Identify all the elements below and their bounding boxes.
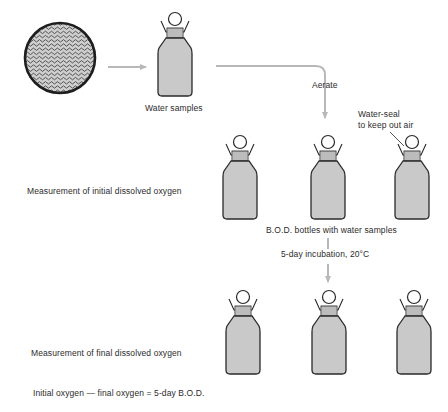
incubation-label: 5-day incubation, 20°C (281, 249, 369, 259)
water-seal-label: Water-seal to keep out air (358, 109, 413, 131)
water-samples-label: Water samples (145, 103, 203, 113)
bod-bottle-final-1 (226, 291, 260, 375)
water-seal-pointer (390, 132, 404, 146)
bod-bottle-initial-3 (395, 136, 429, 220)
bod-formula: Initial oxygen — final oxygen = 5-day B.… (33, 388, 204, 398)
aerate-label: Aerate (312, 80, 338, 90)
initial-measurement-label: Measurement of initial dissolved oxygen (27, 186, 182, 196)
sample-bottle (158, 13, 192, 97)
bod-bottle-initial-1 (223, 136, 257, 220)
bod-bottles-label: B.O.D. bottles with water samples (266, 225, 397, 235)
bod-bottle-final-3 (397, 291, 431, 375)
final-measurement-label: Measurement of final dissolved oxygen (31, 348, 182, 358)
arrow-to-aerate (216, 66, 325, 118)
water-body (20, 23, 104, 93)
bod-bottle-final-2 (312, 291, 346, 375)
bod-bottle-initial-2 (311, 136, 345, 220)
